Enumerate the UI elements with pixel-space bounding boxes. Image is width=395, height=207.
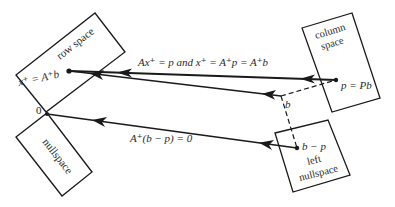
bottom-arrow-equation: A⁺(b − p) = 0	[129, 132, 193, 145]
nullspace-label: nullspace	[40, 136, 75, 176]
origin-label: 0	[36, 104, 42, 116]
left-nullspace-region: left nullspace	[275, 120, 350, 192]
row-space-region: row space x⁺ = A⁺b	[16, 13, 125, 112]
column-space-region: column space	[302, 13, 380, 112]
p-point	[334, 78, 338, 82]
row-space-label: row space	[54, 25, 96, 62]
b-minus-p-label: b − p	[302, 140, 326, 152]
b-minus-p-point	[295, 146, 299, 150]
top-arrow-equation: Ax⁺ = p and x⁺ = A⁺p = A⁺b	[137, 56, 269, 68]
p-label: p = Pb	[340, 79, 372, 91]
nullspace-region: nullspace	[16, 113, 92, 196]
left-nullspace-label-line1: left	[306, 153, 322, 167]
projection-dashes	[281, 80, 336, 148]
origin-point	[45, 112, 49, 116]
x-plus-point	[66, 68, 71, 73]
four-subspaces-diagram: row space x⁺ = A⁺b nullspace column spac…	[0, 0, 395, 207]
b-label: b	[285, 98, 291, 110]
